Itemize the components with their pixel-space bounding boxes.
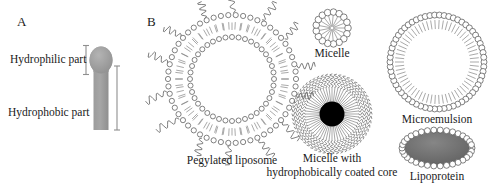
figure-root: A B	[0, 0, 492, 186]
microemulsion-graphic	[387, 12, 487, 112]
micelle-core-graphic	[292, 74, 372, 154]
lipid-tail-shape	[94, 66, 109, 130]
hydrophobic-part-label: Hydrophobic part	[8, 106, 89, 118]
caption-micelle: Micelle	[303, 47, 361, 61]
hydrophobic-bracket	[114, 66, 120, 130]
hydrophilic-part-label: Hydrophilic part	[10, 53, 86, 65]
micelle-graphic	[313, 9, 351, 47]
caption-microemulsion: Microemulsion	[392, 113, 482, 127]
caption-micelle-core-line2: hydrophobically coated core	[262, 166, 402, 180]
pegylated-liposome-graphic	[146, 0, 315, 165]
lipid-head-overlay	[90, 47, 113, 74]
micelle-head-group	[313, 9, 351, 47]
liposome-core	[193, 40, 271, 118]
lipoprotein-graphic	[399, 127, 475, 169]
caption-micelle-core-line1: Micelle with	[272, 152, 392, 166]
amphiphile-molecule	[90, 47, 113, 131]
hydrophobic-core	[320, 102, 345, 127]
caption-lipoprotein: Lipoprotein	[400, 170, 474, 184]
